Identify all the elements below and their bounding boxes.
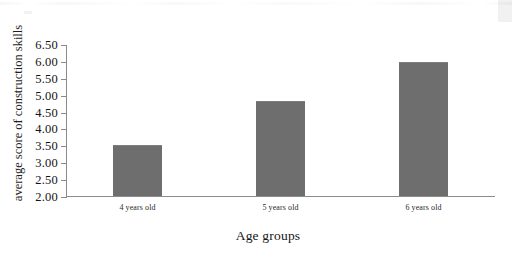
y-axis-tick-mark — [61, 79, 67, 80]
x-axis-title: Age groups — [0, 228, 512, 244]
bar-3 — [399, 62, 448, 196]
category-label-3: 6 years old — [405, 203, 441, 212]
y-axis-tick-mark — [61, 129, 67, 130]
y-axis-tick-label: 5.50 — [35, 71, 58, 86]
y-axis-tick-label: 6.50 — [35, 38, 58, 53]
y-axis-title-label: average score of construction skills — [11, 24, 26, 200]
y-axis-tick-label: 2.50 — [35, 173, 58, 188]
y-axis-tick-label: 3.00 — [35, 156, 58, 171]
y-axis-tick-mark — [61, 197, 67, 198]
y-axis-tick-mark — [61, 163, 67, 164]
y-axis-tick-mark — [61, 45, 67, 46]
y-axis-tick-label: 2.00 — [35, 190, 58, 205]
scan-streak-artifact — [0, 2, 512, 5]
y-axis-tick-label: 4.50 — [35, 105, 58, 120]
bar-chart-figure: average score of construction skills 2.0… — [0, 0, 512, 262]
x-axis-title-label: Age groups — [236, 228, 301, 244]
y-axis-title: average score of construction skills — [8, 10, 28, 215]
y-axis-tick-mark — [61, 113, 67, 114]
scan-corner-smudge-icon — [498, 0, 512, 22]
y-axis-tick-mark — [61, 96, 67, 97]
y-axis-tick-label: 4.00 — [35, 122, 58, 137]
y-axis-tick-mark — [61, 180, 67, 181]
y-axis-tick-mark — [61, 62, 67, 63]
y-axis-tick-label: 6.00 — [35, 54, 58, 69]
plot-area: 2.002.503.003.504.004.505.005.506.006.50… — [66, 45, 495, 197]
y-axis-line — [66, 45, 67, 197]
y-axis-tick-mark — [61, 146, 67, 147]
category-label-1: 4 years old — [119, 203, 155, 212]
y-axis-tick-label: 5.00 — [35, 88, 58, 103]
y-axis-tick-label: 3.50 — [35, 139, 58, 154]
category-label-2: 5 years old — [262, 203, 298, 212]
x-axis-line — [66, 196, 495, 197]
bar-2 — [256, 101, 305, 196]
bar-1 — [113, 145, 162, 196]
